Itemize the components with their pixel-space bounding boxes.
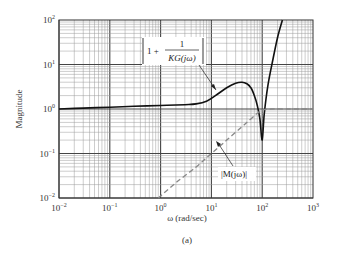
y-tick-label: 10−2 bbox=[40, 192, 55, 203]
annotation-closed-loop-label: |M(jω)| bbox=[216, 141, 256, 181]
x-tick-label: 10−2 bbox=[51, 202, 66, 213]
y-tick-label: 100 bbox=[43, 103, 55, 114]
svg-text:KG(jω): KG(jω) bbox=[167, 53, 195, 63]
x-tick-label: 102 bbox=[256, 202, 268, 213]
x-axis-label: ω (rad/sec) bbox=[167, 213, 207, 223]
y-axis-ticks: 10210110010−110−2 bbox=[40, 14, 55, 203]
svg-text:1: 1 bbox=[180, 39, 185, 49]
x-tick-label: 103 bbox=[307, 202, 319, 213]
figure-caption: (a) bbox=[182, 235, 192, 245]
svg-text:|M(jω)|: |M(jω)| bbox=[221, 169, 247, 179]
y-tick-label: 10−1 bbox=[40, 148, 55, 159]
y-axis-label: Magnitude bbox=[14, 90, 24, 129]
x-tick-label: 10−1 bbox=[102, 202, 117, 213]
y-tick-label: 101 bbox=[43, 59, 55, 70]
x-tick-label: 101 bbox=[205, 202, 217, 213]
bode-magnitude-chart: 10−210−1100101102103 10210110010−110−2 M… bbox=[0, 0, 341, 256]
svg-text:1 +: 1 + bbox=[147, 46, 159, 56]
y-tick-label: 102 bbox=[43, 14, 55, 25]
x-axis-ticks: 10−210−1100101102103 bbox=[51, 202, 319, 213]
x-tick-label: 100 bbox=[155, 202, 167, 213]
